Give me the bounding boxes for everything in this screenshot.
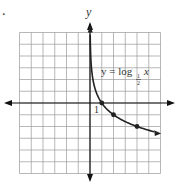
curve-right-arrow-icon xyxy=(154,130,161,136)
curve xyxy=(88,25,161,136)
x-axis-right-arrow-icon xyxy=(167,100,175,106)
y-axis-label: y xyxy=(85,5,92,19)
svg-text:y = log: y = log xyxy=(101,65,133,77)
figure-marker: . xyxy=(2,3,6,18)
equation-variable: x xyxy=(143,65,149,77)
y-axis-down-arrow-icon xyxy=(87,174,93,182)
data-point xyxy=(135,124,140,129)
x-tick-label-1: 1 xyxy=(94,104,99,115)
equation-base-numerator: 1 xyxy=(137,73,140,79)
axes xyxy=(4,22,175,182)
log-curve xyxy=(90,35,154,132)
equation-base-denominator: 2 xyxy=(137,80,140,86)
log-graph-figure: . y y = log 1 2 x 1 xyxy=(0,0,179,184)
equation-prefix: y = log xyxy=(101,65,133,77)
x-axis-left-arrow-icon xyxy=(4,100,12,106)
data-point xyxy=(99,101,104,106)
data-point xyxy=(111,112,116,117)
